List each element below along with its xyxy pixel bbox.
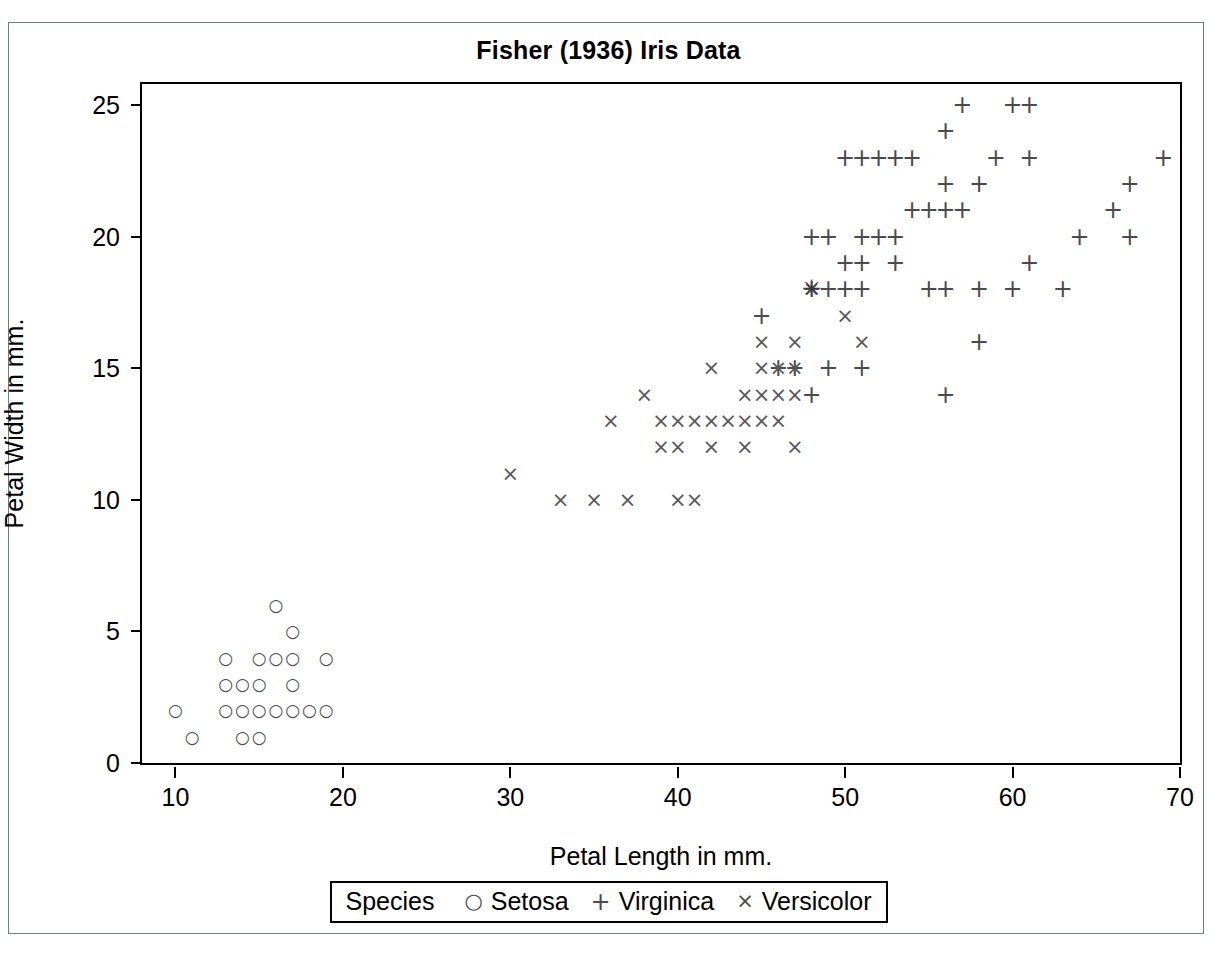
- data-point-virginica: +: [936, 383, 956, 407]
- y-axis-tick: [131, 367, 142, 369]
- data-point-versicolor: ×: [753, 384, 771, 405]
- data-point-versicolor: ×: [686, 410, 704, 431]
- circle-marker-icon: ○: [464, 891, 482, 912]
- x-axis-tick-label: 30: [496, 783, 524, 812]
- y-axis-tick: [131, 762, 142, 764]
- y-axis-tick: [131, 630, 142, 632]
- data-point-setosa: ○: [269, 649, 284, 666]
- data-marker-layer: ○○○○○○○○○○○○○○○○○○○○○○++++++++++++++++++…: [142, 84, 1180, 763]
- data-point-versicolor: ×: [753, 410, 771, 431]
- y-axis-tick-label: 20: [92, 222, 120, 251]
- data-point-versicolor: ×: [669, 489, 687, 510]
- x-axis-tick: [844, 767, 846, 778]
- data-point-setosa: ○: [319, 649, 334, 666]
- data-point-virginica: +: [852, 356, 872, 380]
- data-point-setosa: ○: [218, 676, 233, 693]
- data-point-setosa: ○: [252, 702, 267, 719]
- x-axis-tick-label: 70: [1166, 783, 1194, 812]
- data-point-virginica: +: [1003, 277, 1023, 301]
- data-point-virginica: +: [1053, 277, 1073, 301]
- data-point-virginica: +: [835, 251, 855, 275]
- data-point-versicolor: ×: [786, 331, 804, 352]
- data-point-virginica: +: [751, 304, 771, 328]
- data-point-setosa: ○: [285, 702, 300, 719]
- x-axis-tick: [677, 767, 679, 778]
- legend-item-versicolor[interactable]: × Versicolor: [736, 887, 871, 916]
- legend-item-setosa[interactable]: ○ Setosa: [464, 887, 568, 916]
- data-point-versicolor: ×: [619, 489, 637, 510]
- data-point-versicolor: ×: [786, 437, 804, 458]
- data-point-setosa: ○: [235, 702, 250, 719]
- data-point-setosa: ○: [285, 649, 300, 666]
- y-axis-tick-label: 25: [92, 91, 120, 120]
- data-point-versicolor: ×: [702, 358, 720, 379]
- data-point-setosa: ○: [269, 702, 284, 719]
- data-point-setosa: ○: [235, 728, 250, 745]
- data-point-versicolor: ×: [853, 331, 871, 352]
- data-point-overlap: ✳: [802, 277, 822, 301]
- y-axis-label: Petal Width in mm.: [0, 82, 40, 765]
- data-point-virginica: +: [885, 251, 905, 275]
- data-point-versicolor: ×: [635, 384, 653, 405]
- data-point-versicolor: ×: [769, 384, 787, 405]
- data-point-versicolor: ×: [602, 410, 620, 431]
- data-point-versicolor: ×: [786, 384, 804, 405]
- x-axis-tick: [342, 767, 344, 778]
- data-point-virginica: +: [936, 119, 956, 143]
- legend-title: Species: [345, 887, 434, 916]
- legend-item-label: Virginica: [619, 887, 714, 916]
- data-point-virginica: +: [969, 330, 989, 354]
- data-point-virginica: +: [952, 93, 972, 117]
- legend: Species ○ Setosa + Virginica × Versicolo…: [329, 881, 887, 923]
- x-marker-icon: ×: [736, 891, 754, 912]
- data-point-virginica: +: [1069, 225, 1089, 249]
- data-point-virginica: +: [1153, 146, 1173, 170]
- data-point-versicolor: ×: [585, 489, 603, 510]
- y-axis-tick-label: 5: [106, 617, 120, 646]
- data-point-setosa: ○: [252, 649, 267, 666]
- data-point-versicolor: ×: [769, 410, 787, 431]
- x-axis-tick-label: 50: [831, 783, 859, 812]
- data-point-virginica: +: [936, 277, 956, 301]
- data-point-setosa: ○: [235, 676, 250, 693]
- data-point-versicolor: ×: [702, 437, 720, 458]
- data-point-virginica: +: [969, 277, 989, 301]
- x-axis-tick-label: 40: [664, 783, 692, 812]
- data-point-setosa: ○: [285, 623, 300, 640]
- data-point-virginica: +: [1019, 93, 1039, 117]
- data-point-virginica: +: [1019, 146, 1039, 170]
- page-title: Fisher (1936) Iris Data: [0, 36, 1217, 65]
- data-point-setosa: ○: [218, 649, 233, 666]
- x-axis-tick: [1179, 767, 1181, 778]
- legend-item-virginica[interactable]: + Virginica: [591, 887, 715, 916]
- data-point-virginica: +: [818, 356, 838, 380]
- data-point-versicolor: ×: [702, 410, 720, 431]
- x-axis-tick: [509, 767, 511, 778]
- data-point-virginica: +: [802, 225, 822, 249]
- data-point-versicolor: ×: [719, 410, 737, 431]
- plot-area: ○○○○○○○○○○○○○○○○○○○○○○++++++++++++++++++…: [140, 82, 1182, 765]
- data-point-virginica: +: [1103, 198, 1123, 222]
- data-point-setosa: ○: [252, 728, 267, 745]
- data-point-setosa: ○: [319, 702, 334, 719]
- data-point-versicolor: ×: [753, 358, 771, 379]
- data-point-versicolor: ×: [836, 305, 854, 326]
- data-point-virginica: +: [969, 172, 989, 196]
- x-axis-tick-label: 60: [999, 783, 1027, 812]
- data-point-versicolor: ×: [736, 384, 754, 405]
- y-axis-tick-label: 15: [92, 354, 120, 383]
- x-axis-label: Petal Length in mm.: [140, 842, 1182, 871]
- data-point-versicolor: ×: [786, 358, 804, 379]
- x-axis-tick: [1012, 767, 1014, 778]
- data-point-virginica: +: [1019, 251, 1039, 275]
- data-point-virginica: +: [902, 146, 922, 170]
- y-axis-tick: [131, 104, 142, 106]
- data-point-setosa: ○: [252, 676, 267, 693]
- data-point-virginica: +: [986, 146, 1006, 170]
- data-point-setosa: ○: [185, 728, 200, 745]
- data-point-setosa: ○: [269, 597, 284, 614]
- data-point-versicolor: ×: [669, 410, 687, 431]
- y-axis-tick: [131, 499, 142, 501]
- data-point-versicolor: ×: [552, 489, 570, 510]
- data-point-setosa: ○: [218, 702, 233, 719]
